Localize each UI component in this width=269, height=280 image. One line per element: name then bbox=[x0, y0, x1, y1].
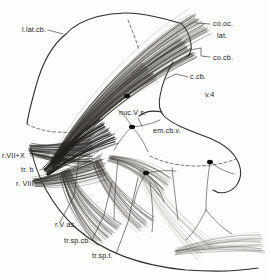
label-c-cb: c.cb. bbox=[190, 72, 206, 81]
label-co-oc-lat-line1: co.oc. bbox=[213, 19, 233, 28]
soma-right-lateral bbox=[207, 160, 213, 164]
figure-background bbox=[0, 0, 269, 280]
label-l-lat-cb: l.lat.cb. bbox=[22, 25, 46, 34]
label-tr-sp-cb: tr.sp.cb. bbox=[64, 236, 91, 245]
label-em-cb-v: em.cb.v. bbox=[153, 126, 181, 135]
label-r-vii-x: r.VII+X bbox=[2, 151, 25, 160]
label-co-oc-lat-line2: lat. bbox=[217, 31, 227, 40]
label-co-cb: co.cb. bbox=[213, 53, 233, 62]
label-r-v-as: r.V as. bbox=[55, 220, 76, 229]
label-nuc-v-s: nuc.V s. bbox=[119, 108, 146, 117]
figure-root: l.lat.cb.co.oc.lat.co.cb.c.cb.v.4nuc.V s… bbox=[0, 0, 269, 280]
anatomical-figure: l.lat.cb.co.oc.lat.co.cb.c.cb.v.4nuc.V s… bbox=[0, 0, 269, 280]
label-v-4: v.4 bbox=[205, 90, 215, 99]
label-tr-b: tr. b bbox=[21, 165, 34, 174]
label-r-viii: r. VIII bbox=[16, 179, 34, 188]
label-tr-sp-t: tr.sp.t. bbox=[92, 251, 113, 260]
soma-nuc-v-s bbox=[129, 125, 135, 129]
soma-cerebellar-cortex bbox=[124, 94, 130, 98]
soma-lower-mid bbox=[143, 171, 149, 175]
